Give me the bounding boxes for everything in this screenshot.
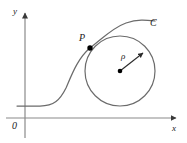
radius-rho-label: ρ [121,52,125,61]
curve-c-label: C [150,18,157,28]
osculating-circle-figure: y x 0 P C ρ [0,0,187,143]
x-axis-label: x [172,124,176,133]
tangency-point-dot [87,45,92,50]
circle-center-dot [118,69,123,74]
origin-label: 0 [12,121,17,131]
point-p-label: P [79,33,85,43]
figure-canvas [0,0,187,143]
y-axis-label: y [13,7,17,16]
